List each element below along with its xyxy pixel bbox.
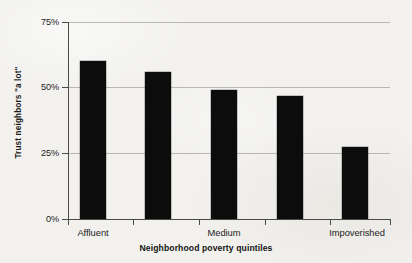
- y-axis-title: Trust neighbors "a lot": [14, 18, 23, 208]
- x-tick-mark-0: [68, 219, 69, 225]
- x-tick-mark-5: [390, 219, 391, 225]
- y-tick-label-75: 75%: [15, 17, 59, 27]
- y-tick-label-50: 50%: [15, 82, 59, 92]
- x-tick-label-medium: Medium: [207, 227, 240, 238]
- y-tick-label-0: 0%: [15, 214, 59, 224]
- x-axis-line: [68, 219, 391, 220]
- x-tick-mark-1: [133, 219, 134, 225]
- x-tick-label-affluent: Affluent: [77, 227, 108, 238]
- gridline-50: [68, 87, 390, 88]
- x-tick-mark-3: [265, 219, 266, 225]
- bar-chart-figure: Trust neighbors "a lot" 75% 50% 25% 0% A…: [0, 0, 412, 263]
- bar-medium: [211, 90, 237, 219]
- gridline-75: [68, 22, 390, 23]
- bar-affluent: [80, 61, 106, 219]
- bar-impoverished: [342, 147, 368, 219]
- y-tick-label-25: 25%: [15, 148, 59, 158]
- x-tick-mark-2: [199, 219, 200, 225]
- x-tick-label-impoverished: Impoverished: [329, 227, 385, 238]
- x-axis-title: Neighborhood poverty quintiles: [0, 243, 412, 253]
- x-tick-mark-4: [330, 219, 331, 225]
- plot-area: [68, 22, 390, 219]
- bar-quintile-2: [145, 72, 171, 219]
- y-axis-line: [68, 22, 69, 220]
- bar-quintile-4: [277, 96, 303, 219]
